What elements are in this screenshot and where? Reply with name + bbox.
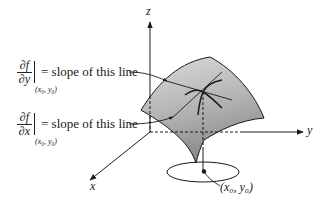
leader-line-point bbox=[205, 173, 220, 186]
z-axis-label: z bbox=[146, 4, 151, 19]
numerator: ∂f bbox=[20, 60, 29, 71]
x-axis-label: x bbox=[90, 179, 95, 194]
slope-text: = slope of this line bbox=[41, 64, 138, 80]
evaluation-bar bbox=[34, 61, 35, 83]
evaluation-point: (x₀, y₀) bbox=[35, 85, 57, 94]
slope-text: = slope of this line bbox=[41, 116, 138, 132]
denominator: ∂x bbox=[19, 126, 30, 137]
diagram-graphics bbox=[0, 0, 327, 209]
partial-f-partial-x: ∂f ∂x bbox=[17, 112, 32, 137]
point-x0-y0 bbox=[202, 169, 206, 173]
y-axis-label: y bbox=[307, 123, 312, 138]
x-axis bbox=[90, 132, 150, 180]
partial-derivatives-diagram: z y x ∂f ∂y (x₀, y₀) = slope of this lin… bbox=[0, 0, 327, 209]
numerator: ∂f bbox=[20, 112, 29, 123]
denominator: ∂y bbox=[19, 74, 30, 85]
evaluation-bar bbox=[34, 113, 35, 135]
point-label: (x₀, y₀) bbox=[220, 180, 253, 195]
evaluation-point: (x₀, y₀) bbox=[35, 137, 57, 146]
partial-f-partial-y: ∂f ∂y bbox=[17, 60, 32, 85]
